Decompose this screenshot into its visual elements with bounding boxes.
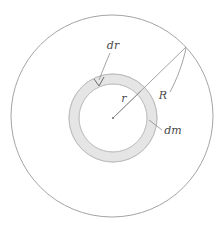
disk-ring-diagram: dr r R dm: [0, 0, 221, 231]
label-dm: dm: [164, 124, 181, 137]
center-dot: [112, 117, 114, 119]
label-r: r: [121, 92, 127, 105]
radius-r-line: [113, 91, 141, 118]
label-dr: dr: [107, 39, 120, 52]
label-R: R: [158, 89, 167, 102]
physics-diagram-canvas: dr r R dm: [0, 0, 221, 231]
